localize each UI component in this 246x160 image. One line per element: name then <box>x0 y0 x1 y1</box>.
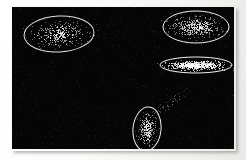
scatter-plot-canvas <box>12 7 234 149</box>
figure-root <box>0 0 246 160</box>
scatter-plot-area <box>12 7 234 149</box>
